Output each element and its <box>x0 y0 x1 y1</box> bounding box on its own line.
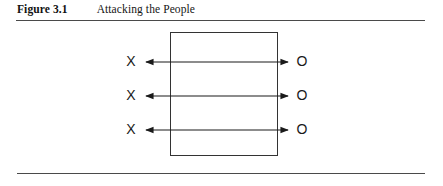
observation-label-row-2: O <box>294 88 310 102</box>
treatment-box <box>171 33 278 156</box>
treatment-label-row-3: X <box>123 122 139 136</box>
figure-divider-bottom <box>17 173 425 174</box>
treatment-label-row-2: X <box>123 88 139 102</box>
treatment-label-row-1: X <box>123 54 139 68</box>
diagram-svg <box>0 0 443 186</box>
observation-label-row-3: O <box>294 122 310 136</box>
diagram-canvas: X X X O O O <box>0 0 443 186</box>
figure-panel: Figure 3.1 Attacking the People X X X O … <box>0 0 443 186</box>
observation-label-row-1: O <box>294 54 310 68</box>
